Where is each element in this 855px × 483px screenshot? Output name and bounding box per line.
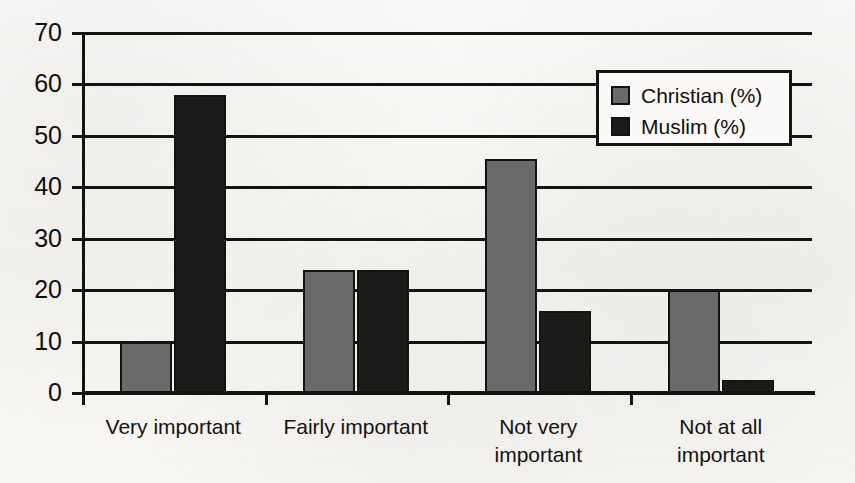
x-category-label-3: Not at allimportant xyxy=(630,413,813,468)
legend-entry-0: Christian (%) xyxy=(611,80,789,111)
x-category-label-line: Very important xyxy=(82,413,265,441)
bar-christian-3 xyxy=(668,290,720,393)
legend-swatch-icon-1 xyxy=(611,117,630,136)
bar-muslim-2 xyxy=(539,311,591,393)
x-category-label-line: Not at all xyxy=(630,413,813,441)
y-tick-label-10: 10 xyxy=(0,329,62,354)
x-category-label-line: Fairly important xyxy=(265,413,448,441)
y-tick-mark-70 xyxy=(72,32,83,35)
bar-muslim-0 xyxy=(174,95,226,393)
y-tick-mark-20 xyxy=(72,289,83,292)
y-tick-mark-10 xyxy=(72,341,83,344)
y-tick-mark-50 xyxy=(72,135,83,138)
x-category-label-line: important xyxy=(447,441,630,469)
bar-christian-2 xyxy=(485,159,537,393)
bar-christian-0 xyxy=(120,342,172,393)
chart-legend: Christian (%)Muslim (%) xyxy=(596,70,792,146)
y-tick-label-50: 50 xyxy=(0,123,62,148)
y-tick-label-60: 60 xyxy=(0,71,62,96)
x-axis-line xyxy=(82,391,815,395)
y-tick-label-0: 0 xyxy=(0,380,62,405)
x-category-label-line: Not very xyxy=(447,413,630,441)
grouped-bar-chart: 010203040506070 Very importantFairly imp… xyxy=(0,0,855,483)
gridline-70 xyxy=(82,32,812,35)
legend-label-0: Christian (%) xyxy=(641,84,762,108)
legend-label-1: Muslim (%) xyxy=(641,115,746,139)
x-category-label-line: important xyxy=(630,441,813,469)
x-category-label-2: Not veryimportant xyxy=(447,413,630,468)
y-tick-mark-30 xyxy=(72,238,83,241)
y-tick-label-30: 30 xyxy=(0,226,62,251)
y-tick-label-20: 20 xyxy=(0,277,62,302)
legend-swatch-icon-0 xyxy=(611,86,630,105)
bar-muslim-1 xyxy=(357,270,409,393)
y-tick-mark-40 xyxy=(72,186,83,189)
y-tick-mark-60 xyxy=(72,83,83,86)
legend-entry-1: Muslim (%) xyxy=(611,111,789,142)
x-category-label-1: Fairly important xyxy=(265,413,448,441)
y-tick-label-70: 70 xyxy=(0,20,62,45)
x-category-label-0: Very important xyxy=(82,413,265,441)
y-tick-label-40: 40 xyxy=(0,174,62,199)
bar-christian-1 xyxy=(303,270,355,393)
